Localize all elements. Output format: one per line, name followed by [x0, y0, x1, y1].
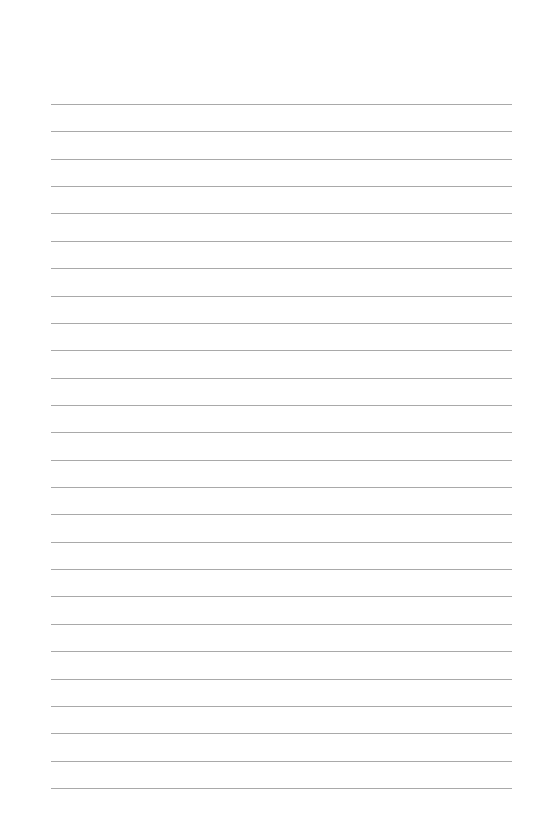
- ruled-line: [51, 761, 512, 762]
- ruled-line: [51, 788, 512, 789]
- ruled-line: [51, 131, 512, 132]
- ruled-line: [51, 679, 512, 680]
- ruled-line: [51, 104, 512, 105]
- ruled-line: [51, 213, 512, 214]
- ruled-line: [51, 268, 512, 269]
- lined-paper-sheet: [0, 0, 534, 838]
- ruled-line: [51, 460, 512, 461]
- ruled-line: [51, 159, 512, 160]
- ruled-line: [51, 542, 512, 543]
- ruled-line: [51, 432, 512, 433]
- ruled-line: [51, 733, 512, 734]
- ruled-line: [51, 323, 512, 324]
- ruled-line: [51, 624, 512, 625]
- ruled-line: [51, 514, 512, 515]
- ruled-line: [51, 241, 512, 242]
- ruled-line: [51, 350, 512, 351]
- ruled-line: [51, 378, 512, 379]
- ruled-line: [51, 706, 512, 707]
- ruled-line: [51, 487, 512, 488]
- ruled-line: [51, 651, 512, 652]
- ruled-line: [51, 596, 512, 597]
- ruled-line: [51, 296, 512, 297]
- ruled-line: [51, 405, 512, 406]
- ruled-line: [51, 569, 512, 570]
- ruled-line: [51, 186, 512, 187]
